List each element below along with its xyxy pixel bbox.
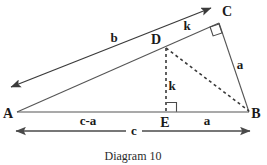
vertex-label-D: D [151,32,161,47]
segment-label-b: b [110,30,117,45]
vertex-label-A: A [3,106,14,121]
extended-ray-through-a-d-c [11,8,211,87]
segment-label-altitude-k: k [168,78,176,93]
segment-a-to-c [17,23,219,112]
segment-label-c-minus-a: c-a [80,113,97,128]
segment-label-a-base: a [204,113,211,128]
diagram-canvas: A B C D E b k a k c-a a c Diagram 10 [0,0,267,165]
geometry-diagram-figure: A B C D E b k a k c-a a c Diagram 10 [0,0,267,165]
figure-caption: Diagram 10 [105,149,162,163]
segment-label-a-right: a [237,57,244,72]
vertex-label-E: E [160,115,169,130]
vertex-label-B: B [251,106,260,121]
vertex-label-C: C [222,4,232,19]
right-angle-marker-at-e [167,103,177,112]
segment-label-c: c [131,123,137,138]
segment-label-k-upper: k [183,18,191,33]
